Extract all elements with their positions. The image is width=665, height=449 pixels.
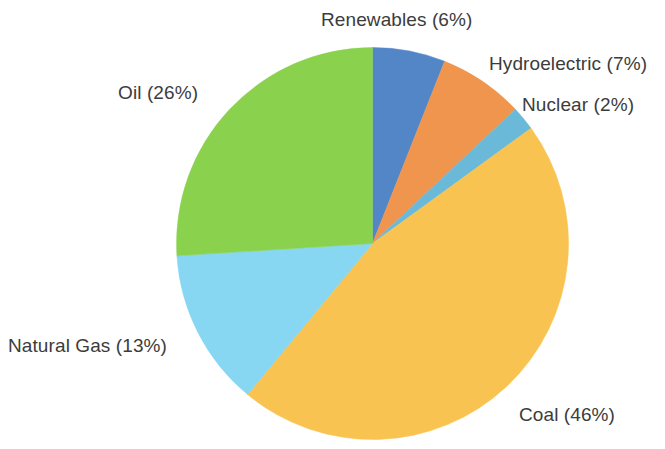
slice-label-nuclear: Nuclear (2%) — [522, 95, 634, 116]
pie-slice-oil — [177, 48, 373, 256]
slice-label-renewables: Renewables (6%) — [321, 10, 472, 31]
slice-label-oil: Oil (26%) — [118, 83, 198, 104]
pie-chart-figure: Renewables (6%) Hydroelectric (7%) Nucle… — [0, 0, 665, 449]
slice-label-coal: Coal (46%) — [519, 405, 615, 426]
slice-label-natural-gas: Natural Gas (13%) — [8, 336, 167, 357]
slice-label-hydroelectric: Hydroelectric (7%) — [489, 54, 647, 75]
pie-slice-group — [177, 48, 569, 440]
